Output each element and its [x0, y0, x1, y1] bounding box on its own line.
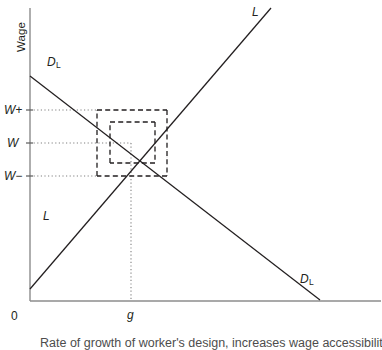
supply-curve-L: [30, 8, 271, 289]
y-axis-title: Wage: [16, 22, 28, 52]
curve-label-demand-upper-sub: L: [56, 60, 61, 70]
curve-label-demand-lower-base: D: [300, 272, 309, 286]
curve-label-supply-lower: L: [43, 210, 50, 222]
guide-lines: [30, 110, 131, 301]
curve-label-supply-upper: L: [252, 6, 259, 18]
curve-label-demand-upper: DL: [47, 56, 60, 68]
y-tick-label-w: W: [7, 137, 18, 149]
axis-lines: [30, 8, 381, 301]
cobweb-arrowheads-outer: [97, 110, 167, 176]
origin-label: 0: [11, 310, 18, 322]
cobweb-outer-rect: [97, 110, 167, 176]
x-tick-label-g: g: [127, 309, 134, 321]
curve-label-demand-lower: DL: [300, 273, 313, 285]
demand-curve-DL: [30, 76, 320, 300]
curve-label-demand-upper-base: D: [47, 55, 56, 69]
figure-caption: Rate of growth of worker's design, incre…: [40, 336, 382, 350]
curve-label-demand-lower-sub: L: [309, 277, 314, 287]
y-tick-label-w-plus: W+: [4, 104, 22, 116]
y-tick-label-w-minus: W−: [4, 170, 22, 182]
